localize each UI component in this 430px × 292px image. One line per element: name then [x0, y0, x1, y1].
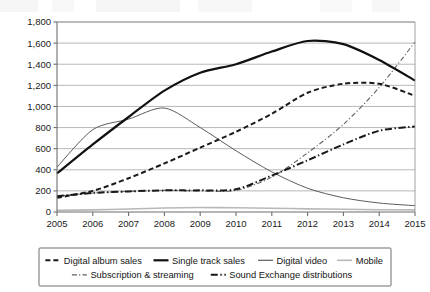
y-tick-label: 1,200: [27, 80, 51, 91]
series-line-sound-exchange-distributions: [57, 127, 415, 197]
y-tick-label: 400: [35, 164, 51, 175]
y-tick-label: 1,600: [27, 38, 51, 49]
line-chart: 02004006008001,0001,2001,4001,6001,800 2…: [0, 0, 430, 292]
y-tick-label: 1,800: [27, 16, 51, 27]
legend-label-single-track-sales: Single track sales: [172, 256, 245, 266]
legend-label-subscription-streaming: Subscription & streaming: [90, 270, 193, 280]
y-tick-label: 200: [35, 185, 51, 196]
x-axis-tick-marks: [57, 212, 415, 216]
x-axis-tick-labels: 2005200620072008200920102011201220132014…: [46, 218, 425, 229]
series-line-digital-album-sales: [57, 83, 415, 198]
chart-canvas: 02004006008001,0001,2001,4001,6001,800 2…: [0, 0, 430, 292]
y-tick-label: 1,400: [27, 59, 51, 70]
legend-label-sound-exchange-distributions: Sound Exchange distributions: [229, 270, 352, 280]
y-tick-label: 1,000: [27, 101, 51, 112]
x-tick-label: 2007: [118, 218, 139, 229]
y-tick-label: 600: [35, 143, 51, 154]
x-tick-label: 2011: [262, 218, 282, 229]
series-lines: [57, 41, 415, 211]
legend-label-digital-album-sales: Digital album sales: [64, 256, 142, 266]
x-tick-label: 2013: [333, 218, 354, 229]
x-tick-label: 2009: [190, 218, 211, 229]
x-tick-label: 2012: [297, 218, 318, 229]
y-tick-label: 0: [46, 206, 51, 217]
x-tick-label: 2015: [404, 218, 425, 229]
legend-border: [39, 248, 391, 286]
x-tick-label: 2014: [369, 218, 390, 229]
x-tick-label: 2005: [46, 218, 67, 229]
series-line-mobile: [57, 208, 415, 211]
x-tick-label: 2010: [225, 218, 246, 229]
y-tick-label: 800: [35, 122, 51, 133]
legend-label-digital-video: Digital video: [277, 256, 328, 266]
legend-label-mobile: Mobile: [356, 256, 383, 266]
x-tick-label: 2008: [154, 218, 175, 229]
x-tick-label: 2006: [82, 218, 103, 229]
y-axis-tick-labels: 02004006008001,0001,2001,4001,6001,800: [27, 16, 51, 217]
chart-legend: Digital album salesSingle track salesDig…: [39, 248, 391, 286]
